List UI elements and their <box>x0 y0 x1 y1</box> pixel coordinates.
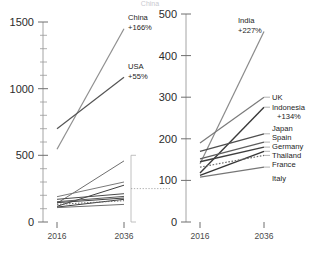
label-india: India +227% <box>238 16 262 35</box>
overview-series-lines <box>57 29 124 208</box>
overview-y-ticks: 1500 1000 500 0 <box>10 16 48 228</box>
label-indonesia-pct: +134% <box>277 112 301 121</box>
label-germany: Germany <box>272 142 303 151</box>
chart-figure: China 1500 1000 500 0 <box>0 0 309 253</box>
zoom-ytick-400: 400 <box>159 50 177 62</box>
svg-text:USA: USA <box>128 62 145 71</box>
svg-text:India: India <box>238 16 255 25</box>
label-uk: UK <box>272 93 283 102</box>
overview-y-minor-ticks <box>40 35 47 208</box>
label-china: China +166% <box>128 13 152 32</box>
svg-text:+55%: +55% <box>128 72 148 81</box>
overview-xtick-2016: 2016 <box>48 231 67 241</box>
overview-x-ticks: 2016 2036 <box>48 222 134 241</box>
zoom-ytick-0: 0 <box>171 216 177 228</box>
zoom-ytick-200: 200 <box>159 133 177 145</box>
figure-title-fragment: China <box>141 0 159 7</box>
svg-text:+227%: +227% <box>238 26 262 35</box>
zoom-xtick-2036: 2036 <box>255 231 274 241</box>
zoom-ytick-300: 300 <box>159 91 177 103</box>
label-italy: Italy <box>272 174 286 183</box>
label-indonesia: Indonesia <box>272 103 306 112</box>
overview-ytick-1000: 1000 <box>10 83 34 95</box>
label-japan: Japan <box>272 124 293 133</box>
zoom-series-lines <box>200 32 264 178</box>
line-india <box>200 32 264 164</box>
overview-ytick-500: 500 <box>16 149 34 161</box>
zoom-label-ticks <box>264 97 270 167</box>
line-usa <box>57 77 124 128</box>
label-france: France <box>272 160 296 169</box>
label-usa: USA +55% <box>128 62 148 81</box>
label-spain: Spain <box>272 133 291 142</box>
zoom-x-ticks: 2016 2036 <box>191 222 274 241</box>
label-thailand: Thailand <box>272 151 301 160</box>
zoom-ytick-100: 100 <box>159 174 177 186</box>
svg-text:+166%: +166% <box>128 23 152 32</box>
overview-xtick-2036: 2036 <box>115 231 134 241</box>
zoom-panel: 500 400 300 200 100 0 2016 2036 <box>159 8 306 241</box>
overview-ytick-0: 0 <box>28 216 34 228</box>
overview-panel: 1500 1000 500 0 <box>10 13 153 241</box>
line-china <box>57 29 124 150</box>
line-france <box>200 155 264 167</box>
zoom-xtick-2016: 2016 <box>191 231 210 241</box>
overview-ytick-1500: 1500 <box>10 16 34 28</box>
svg-text:China: China <box>128 13 149 22</box>
zoom-ytick-500: 500 <box>159 8 177 20</box>
